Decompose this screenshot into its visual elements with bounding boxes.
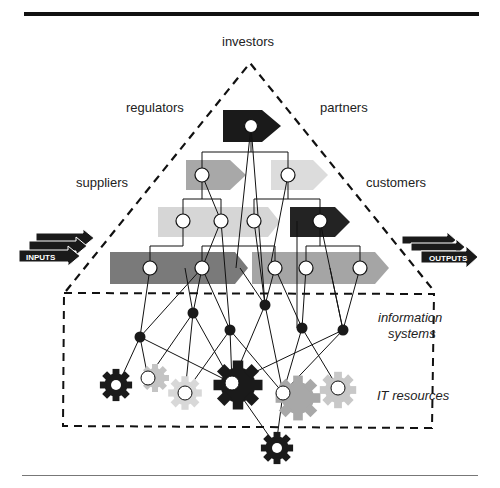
label-it-resources: IT resources bbox=[377, 388, 450, 403]
process-nodes bbox=[143, 120, 367, 276]
top-rule bbox=[24, 12, 479, 16]
label-suppliers: suppliers bbox=[76, 175, 129, 190]
process-block-r2-right bbox=[271, 160, 328, 190]
label-customers: customers bbox=[366, 175, 426, 190]
process-block-r4-left bbox=[110, 252, 248, 284]
bottom-rule bbox=[22, 475, 478, 476]
label-information-systems-line1: information bbox=[378, 310, 442, 325]
inputs-label: INPUTS bbox=[26, 253, 56, 262]
label-regulators: regulators bbox=[126, 100, 184, 115]
label-partners: partners bbox=[320, 100, 368, 115]
outputs-label: OUTPUTS bbox=[429, 254, 468, 263]
gear-icons bbox=[100, 361, 356, 465]
label-information-systems-line2: systems bbox=[388, 326, 436, 341]
information-system-nodes bbox=[135, 300, 349, 343]
label-investors: investors bbox=[222, 34, 275, 49]
enterprise-architecture-diagram: INPUTS OUTPUTS investors regulators part… bbox=[0, 0, 500, 488]
